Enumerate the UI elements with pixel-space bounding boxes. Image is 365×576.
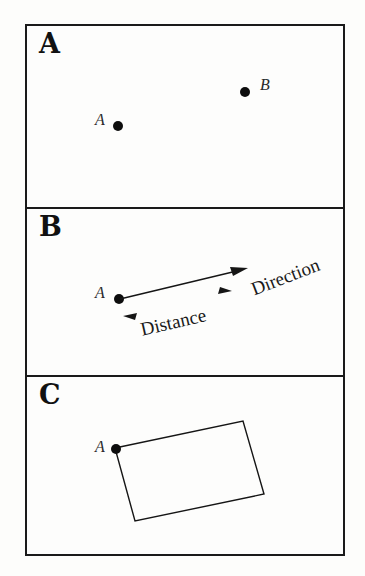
vector-graphics [27,209,343,377]
point-label-a-area: A [95,439,105,455]
area-rectangle [115,421,264,521]
distance-marker-left-icon [123,313,137,320]
panel-point-location: A A B [27,26,343,207]
direction-arrowhead [230,267,248,276]
area-graphics [27,377,343,556]
figure-container: A A B B A Direction Distance [0,0,365,576]
figure-frame: A A B B A Direction Distance [25,24,345,556]
point-label-b: B [260,77,270,93]
point-label-a: A [95,112,105,128]
panel-distance-direction: B A Direction Distance [27,207,343,377]
panel-area-extent: C A [27,375,343,556]
direction-arrow-shaft [120,270,241,299]
panel-label-a: A [39,30,60,57]
point-dot-b [240,87,250,97]
point-dot-a-area [111,444,121,454]
distance-marker-right-icon [218,287,232,294]
point-dot-a [113,121,123,131]
